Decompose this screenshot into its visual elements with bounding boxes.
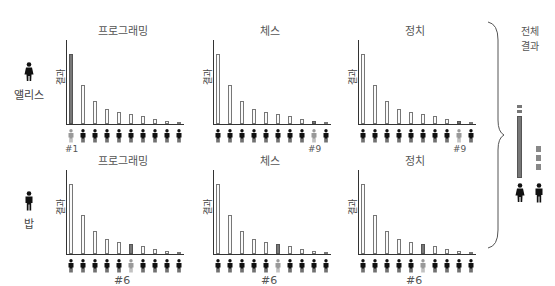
bar — [153, 249, 157, 254]
bars-area — [69, 54, 184, 124]
y-axis-label: 결과 — [54, 69, 67, 85]
bar — [421, 244, 425, 254]
person-icon — [443, 258, 451, 272]
bar — [153, 119, 157, 124]
highlighted-person-icon — [310, 128, 318, 142]
chart-title: 정치 — [350, 22, 480, 38]
bar — [276, 244, 280, 254]
person-icon — [163, 258, 171, 272]
person-icon — [359, 128, 367, 142]
person-icon — [79, 258, 87, 272]
bars-area — [216, 184, 331, 254]
bar — [129, 114, 133, 124]
person-icon — [322, 128, 330, 142]
bar — [288, 116, 292, 124]
bar — [93, 231, 97, 254]
y-axis — [213, 40, 214, 125]
bars-area — [69, 184, 184, 254]
bar — [300, 249, 304, 254]
x-axis — [213, 124, 331, 125]
person-name-bob: 밥 — [4, 215, 54, 231]
person-icon — [286, 128, 294, 142]
rank-label: #6 — [114, 274, 130, 286]
person-icon — [238, 128, 246, 142]
y-axis — [213, 170, 214, 255]
person-icon — [238, 258, 246, 272]
person-icon — [214, 128, 222, 142]
overall-bar-alice — [517, 105, 522, 178]
bar — [469, 122, 473, 124]
person-icon — [103, 128, 111, 142]
person-icon — [175, 258, 183, 272]
bar — [165, 121, 169, 124]
person-icon — [371, 128, 379, 142]
female-person-icon — [22, 62, 36, 86]
y-axis-label: 결과 — [201, 199, 214, 215]
person-icon — [298, 258, 306, 272]
person-icon — [322, 258, 330, 272]
y-axis — [358, 170, 359, 255]
person-icon — [139, 258, 147, 272]
bar — [445, 119, 449, 124]
bars-area — [361, 54, 476, 124]
bar — [409, 242, 413, 254]
bar — [165, 251, 169, 254]
bar — [264, 242, 268, 254]
bar — [252, 239, 256, 254]
chart-panel: 체스결과#6 — [205, 148, 335, 273]
overall-title-line2: 결과 — [512, 39, 548, 54]
person-icon — [310, 258, 318, 272]
person-icon — [298, 128, 306, 142]
bar — [177, 252, 181, 254]
bar — [421, 114, 425, 124]
x-axis — [358, 254, 476, 255]
person-bob: 밥 — [4, 191, 54, 231]
person-icon — [175, 128, 183, 142]
x-axis — [66, 254, 184, 255]
bar — [312, 251, 316, 254]
bar — [240, 101, 244, 124]
person-icon — [127, 128, 135, 142]
person-icon — [395, 258, 403, 272]
person-icon — [214, 258, 222, 272]
y-axis-label: 결과 — [346, 199, 359, 215]
bar — [433, 116, 437, 124]
person-icon — [455, 258, 463, 272]
bar — [397, 109, 401, 124]
bar — [141, 246, 145, 254]
chart-panel: 프로그래밍결과#6 — [58, 148, 188, 273]
bar — [216, 184, 220, 254]
highlighted-person-icon — [67, 128, 75, 142]
chart-title: 정치 — [350, 152, 480, 168]
bars-area — [361, 184, 476, 254]
x-axis — [358, 124, 476, 125]
person-icon — [67, 258, 75, 272]
bar — [457, 121, 461, 124]
x-axis — [66, 124, 184, 125]
y-axis-label: 결과 — [201, 69, 214, 85]
person-icon — [262, 128, 270, 142]
bar — [228, 85, 232, 124]
bar — [69, 184, 73, 254]
bar — [264, 112, 268, 124]
person-icon — [467, 128, 475, 142]
person-icon — [274, 128, 282, 142]
person-icon — [250, 258, 258, 272]
person-icon — [383, 258, 391, 272]
overall-male-icon — [532, 183, 546, 207]
bar — [288, 246, 292, 254]
bar — [69, 54, 73, 124]
overall-bar-bob — [536, 146, 541, 170]
person-icon — [407, 258, 415, 272]
highlighted-person-icon — [274, 258, 282, 272]
y-axis — [66, 40, 67, 125]
bar — [117, 112, 121, 124]
bar — [81, 85, 85, 124]
chart-panel: 정치결과#6 — [350, 148, 480, 273]
person-icon — [91, 258, 99, 272]
bar — [216, 54, 220, 124]
bar — [177, 122, 181, 124]
bar — [300, 119, 304, 124]
person-icon — [359, 258, 367, 272]
y-axis-label: 결과 — [54, 199, 67, 215]
